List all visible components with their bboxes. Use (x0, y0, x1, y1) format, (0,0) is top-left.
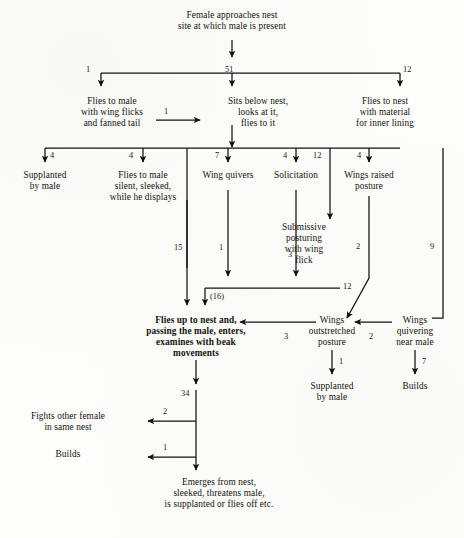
edge-wings-raised-to-outstretched (347, 196, 369, 318)
node-supplanted-by-male-lower: Supplantedby male (296, 381, 368, 403)
node-flies-up-to-nest: Flies up to nest and,passing the male, e… (130, 315, 262, 359)
node-fights-other-female: Fights other femalein same nest (13, 411, 123, 433)
count-34-trunk: 34 (181, 390, 189, 398)
count-51: 51 (225, 66, 233, 74)
count-7-wing-quivers: 7 (215, 152, 219, 160)
node-flies-to-male-silent: Flies to malesilent, sleeked,while he di… (93, 170, 193, 203)
count-4-wings-raised: 4 (357, 152, 361, 160)
node-wings-quivering-near-male: Wingsquiveringnear male (384, 315, 446, 348)
node-solicitation: Solicitation (263, 170, 329, 181)
node-supplanted-by-male-upper: Supplantedby male (5, 170, 85, 192)
count-7-quivering-builds: 7 (422, 358, 426, 366)
node-builds-left: Builds (44, 449, 92, 460)
count-12-submissive: 12 (313, 152, 321, 160)
count-1-wingquivers-merge: 1 (219, 244, 223, 252)
count-12-to-flies-nest: 12 (403, 66, 411, 74)
node-wings-raised-posture: Wings raisedposture (331, 170, 407, 192)
count-4-flies-silent: 4 (129, 152, 133, 160)
count-2-quivering-to-outstretched: 2 (369, 333, 373, 341)
node-flies-to-male-wing-flicks: Flies to malewith wing flicksand fanned … (64, 96, 160, 129)
count-15-silent-column: 15 (174, 244, 182, 252)
node-wing-quivers: Wing quivers (192, 170, 264, 181)
count-1-outstretched-supplanted: 1 (339, 358, 343, 366)
count-3-solicitation-merge: 3 (288, 251, 292, 259)
node-builds-right: Builds (391, 381, 439, 392)
node-start: Female approaches nestsite at which male… (137, 10, 327, 32)
node-wings-outstretched-posture: Wingsoutstretchedposture (298, 315, 366, 348)
node-flies-to-nest-material: Flies to nestwith materialfor inner lini… (339, 96, 431, 129)
count-4-supplanted: 4 (50, 152, 54, 160)
edge-rail-9 (432, 148, 443, 318)
count-16-bracketed: (16) (210, 293, 224, 301)
node-emerges-from-nest: Emerges from nest,sleeked, threatens mal… (139, 477, 299, 510)
count-1-wf-to-sits: 1 (164, 108, 168, 116)
node-submissive-posturing: Submissiveposturingwith wingflick (272, 222, 336, 266)
count-1-to-flies-male: 1 (86, 66, 90, 74)
count-2-fights: 2 (163, 408, 167, 416)
count-12-merge-bar: 12 (343, 283, 351, 291)
node-sits-below-nest: Sits below nest,looks at it,flies to it (213, 96, 303, 129)
count-3-outstretched-to-fliesup: 3 (284, 333, 288, 341)
count-9-rail: 9 (430, 243, 434, 251)
count-1-builds-left: 1 (163, 444, 167, 452)
diagram-canvas: Female approaches nestsite at which male… (0, 0, 464, 538)
count-4-solicitation: 4 (283, 152, 287, 160)
count-2-wings-raised-out: 2 (356, 243, 360, 251)
